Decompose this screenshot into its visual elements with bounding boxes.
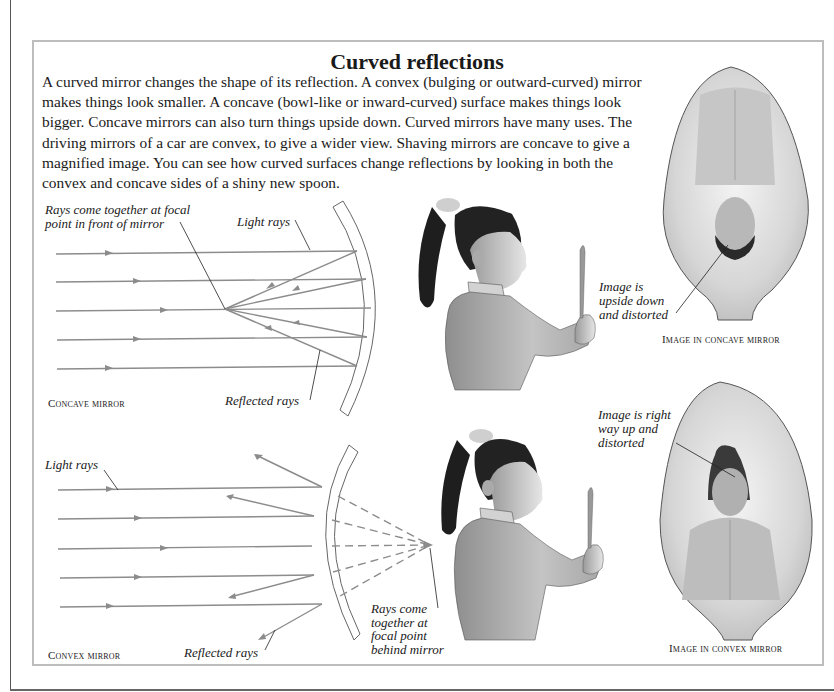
label-light-rays-convex: Light rays (45, 458, 98, 472)
label-focal-point-front: Rays come together at focal point in fro… (45, 203, 190, 231)
label-focal-point-behind: Rays come together at focal point behind… (371, 602, 444, 656)
label-line: Rays come together at focal (45, 203, 190, 217)
label-line: upside down (599, 294, 668, 308)
label-line: together at (371, 616, 444, 630)
label-line: behind mirror (371, 643, 444, 657)
caption-image-concave: Image in concave mirror (662, 333, 780, 345)
label-line: Image is right (598, 408, 671, 422)
label-light-rays-concave: Light rays (237, 215, 290, 229)
caption-image-convex: Image in convex mirror (669, 642, 782, 654)
concave-spoon-image (663, 67, 808, 320)
label-reflected-rays-concave: Reflected rays (225, 394, 299, 408)
label-upside-down: Image is upside down and distorted (599, 280, 668, 322)
label-line: Image is (599, 280, 668, 294)
label-line: way up and (598, 422, 671, 436)
label-reflected-rays-convex: Reflected rays (184, 646, 258, 660)
label-line: Rays come (371, 602, 444, 616)
label-line: point in front of mirror (45, 217, 190, 231)
label-right-way-up: Image is right way up and distorted (598, 408, 671, 450)
label-line: distorted (598, 436, 671, 450)
girl-illustration-top (419, 198, 596, 390)
convex-spoon-image (660, 382, 812, 640)
caption-convex-mirror: Convex mirror (48, 649, 120, 661)
girl-illustration-bottom (441, 429, 603, 640)
label-line: focal point (371, 629, 444, 643)
illustrations (0, 0, 834, 692)
caption-concave-mirror: Concave mirror (48, 397, 125, 409)
concave-mirror-diagram (56, 201, 375, 416)
label-line: and distorted (599, 308, 668, 322)
